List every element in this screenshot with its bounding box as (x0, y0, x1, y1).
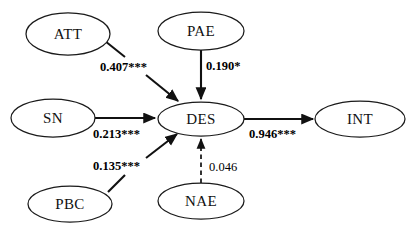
edge-att-des-segment-upper (105, 41, 125, 57)
coef-label-pbc-des: 0.135*** (92, 160, 141, 173)
path-diagram-canvas: ATT PAE SN DES INT PBC NAE 0.407*** 0. (0, 0, 409, 238)
node-des[interactable]: DES (158, 102, 244, 136)
edge-pbc-des-segment-upper (146, 134, 177, 158)
node-att-label: ATT (54, 26, 83, 42)
node-des-label: DES (186, 111, 216, 127)
coef-label-sn-des: 0.213*** (92, 128, 141, 141)
coef-label-des-int: 0.946*** (248, 128, 297, 141)
node-att[interactable]: ATT (26, 13, 110, 55)
node-pbc-label: PBC (55, 196, 85, 212)
node-pae[interactable]: PAE (158, 12, 244, 50)
coef-label-nae-des: 0.046 (208, 161, 238, 174)
node-nae-label: NAE (185, 193, 217, 209)
node-int[interactable]: INT (315, 101, 405, 137)
edge-att-des-segment-lower (146, 75, 178, 101)
node-int-label: INT (347, 111, 373, 127)
edge-pbc-des-segment-lower (108, 175, 125, 192)
node-pae-label: PAE (187, 23, 215, 39)
coef-label-att-des: 0.407*** (99, 61, 148, 74)
node-nae[interactable]: NAE (158, 183, 244, 219)
diagram-svg: ATT PAE SN DES INT PBC NAE (0, 0, 409, 238)
node-sn[interactable]: SN (11, 99, 95, 137)
node-sn-label: SN (43, 110, 63, 126)
coef-label-pae-des: 0.190* (205, 60, 241, 73)
node-pbc[interactable]: PBC (28, 186, 112, 222)
